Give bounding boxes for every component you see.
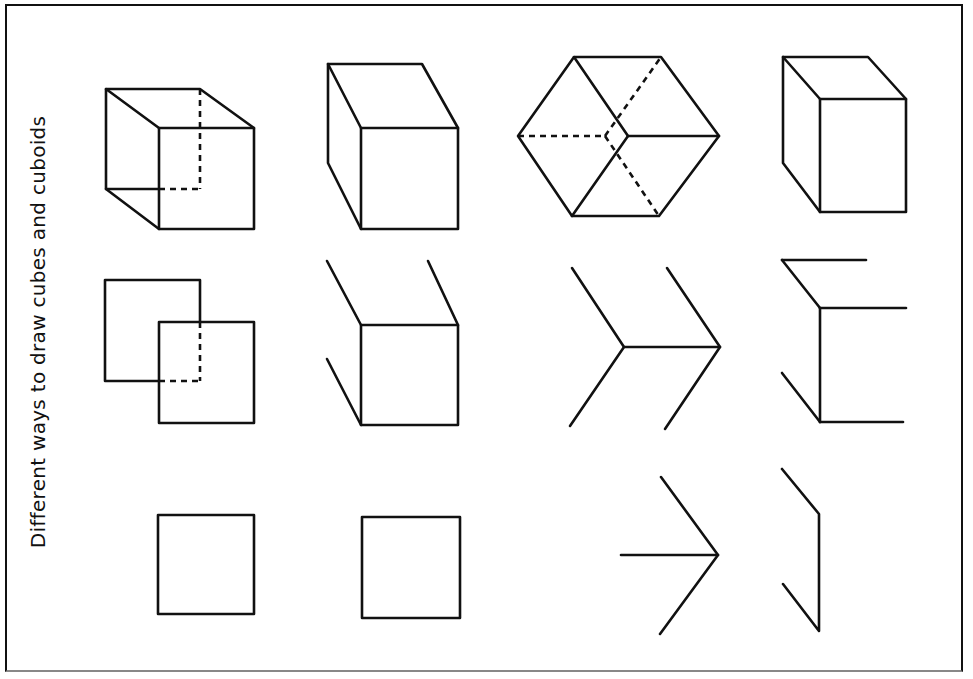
figure-vertical-edge xyxy=(782,469,819,631)
figure-hexagon-cube xyxy=(518,57,719,216)
figure-solid-cuboid-left xyxy=(328,64,458,229)
figure-square-1 xyxy=(158,515,254,614)
figure-arrow-start xyxy=(621,477,718,634)
figure-overlapping-squares xyxy=(105,280,254,423)
figure-partial-cuboid xyxy=(782,260,906,422)
figure-isometric-chevrons xyxy=(570,268,720,429)
figure-wireframe-cube xyxy=(106,89,254,229)
figure-solid-cuboid-right xyxy=(783,57,906,212)
cube-drawings xyxy=(0,0,973,679)
figure-square-oblique-edges xyxy=(327,261,458,425)
figure-square-2 xyxy=(362,517,460,618)
